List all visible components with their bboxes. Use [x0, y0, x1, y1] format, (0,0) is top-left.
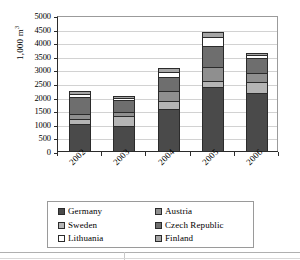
legend-label-germany: Germany [68, 207, 102, 216]
plot-area [57, 16, 278, 152]
legend-item-czech-republic[interactable]: Czech Republic [155, 219, 259, 233]
y-axis-tick-label: 0 [47, 147, 51, 157]
legend-item-germany[interactable]: Germany [58, 205, 155, 219]
bar-segment-austria[interactable] [247, 74, 267, 84]
y-axis-tick-label: 2500 [34, 79, 51, 89]
x-axis-tick [234, 152, 235, 156]
bar-segment-austria[interactable] [203, 68, 223, 82]
legend-swatch-sweden [58, 222, 65, 229]
bar-segment-germany[interactable] [247, 94, 267, 151]
bar-segment-czech-republic[interactable] [70, 98, 90, 114]
x-axis-tick [278, 152, 279, 156]
bar-segment-austria[interactable] [159, 92, 179, 102]
y-axis-tick [54, 139, 58, 140]
y-axis-tick [54, 112, 58, 113]
y-axis-tick [54, 99, 58, 100]
bar-segment-sweden[interactable] [247, 83, 267, 93]
bar-segment-lithuania[interactable] [203, 38, 223, 48]
footer-rule [0, 252, 300, 253]
y-axis-tick [54, 71, 58, 72]
legend-label-czech-republic: Czech Republic [165, 221, 224, 230]
bar-segment-sweden[interactable] [114, 117, 134, 127]
y-axis-tick [54, 17, 58, 18]
legend-swatch-finland [155, 235, 162, 242]
gridline [58, 44, 277, 45]
bar-segment-germany[interactable] [159, 110, 179, 151]
y-axis-tick-label: 1500 [34, 106, 51, 116]
bar-segment-czech-republic[interactable] [159, 78, 179, 92]
legend-label-sweden: Sweden [68, 221, 97, 230]
legend-item-sweden[interactable]: Sweden [58, 219, 155, 233]
legend-label-lithuania: Lithuania [68, 234, 103, 243]
stacked-bar-chart-figure: 0500100015002000250030003500400045005000… [0, 0, 300, 260]
bar-segment-sweden[interactable] [159, 102, 179, 110]
bar-segment-czech-republic[interactable] [247, 59, 267, 73]
bar-segment-czech-republic[interactable] [114, 101, 134, 113]
y-axis-tick-label: 2000 [34, 93, 51, 103]
legend-label-austria: Austria [165, 207, 192, 216]
y-axis-tick-label: 4500 [34, 25, 51, 35]
footer-rule-secondary [0, 258, 300, 259]
y-axis-tick [54, 126, 58, 127]
y-axis-tick-label: 500 [39, 133, 51, 143]
y-axis-title-text: 1,000 m [15, 29, 25, 60]
chart-legend: GermanyAustriaSwedenCzech RepublicLithua… [47, 201, 254, 248]
y-axis-tick-label: 3000 [34, 65, 51, 75]
bar-2005[interactable] [202, 32, 224, 152]
bar-segment-sweden[interactable] [203, 82, 223, 89]
x-axis-tick [101, 152, 102, 156]
legend-item-austria[interactable]: Austria [155, 205, 259, 219]
legend-swatch-lithuania [58, 235, 65, 242]
y-axis-tick-label: 4000 [34, 38, 51, 48]
legend-swatch-austria [155, 208, 162, 215]
legend-swatch-czech-republic [155, 222, 162, 229]
y-axis-tick-labels: 0500100015002000250030003500400045005000 [0, 0, 57, 160]
bar-segment-czech-republic[interactable] [203, 47, 223, 68]
y-axis-tick [54, 85, 58, 86]
y-axis-tick [54, 58, 58, 59]
y-axis-tick-label: 1000 [34, 120, 51, 130]
gridline [58, 31, 277, 32]
bar-segment-germany[interactable] [203, 88, 223, 151]
bar-2004[interactable] [158, 68, 180, 152]
x-axis-tick [145, 152, 146, 156]
bar-2003[interactable] [113, 96, 135, 152]
y-axis-tick-label: 3500 [34, 52, 51, 62]
bar-2006[interactable] [246, 53, 268, 152]
legend-item-lithuania[interactable]: Lithuania [58, 232, 155, 246]
x-axis-tick [57, 152, 58, 156]
y-axis-title-superscript: 3 [13, 26, 20, 29]
x-axis-tick [190, 152, 191, 156]
legend-swatch-germany [58, 208, 65, 215]
legend-grid: GermanyAustriaSwedenCzech RepublicLithua… [48, 205, 253, 246]
y-axis-tick-label: 5000 [34, 11, 51, 21]
gridline [58, 58, 277, 59]
y-axis-tick [54, 44, 58, 45]
y-axis-title: 1,000 m3 [13, 26, 25, 60]
y-axis-tick [54, 31, 58, 32]
bar-2002[interactable] [69, 91, 91, 152]
legend-item-finland[interactable]: Finland [155, 232, 259, 246]
legend-label-finland: Finland [165, 234, 193, 243]
